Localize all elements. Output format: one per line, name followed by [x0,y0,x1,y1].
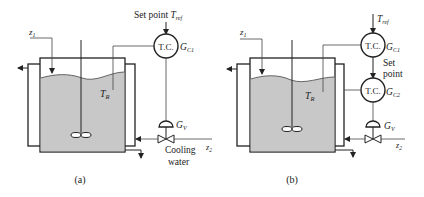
reactor-outlet-arrow-a [125,150,141,158]
inner-setpoint-label-line1-b: Set [383,58,396,68]
inner-setpoint-label-line2-b: point [383,69,403,79]
feed-label-a: z1 [28,27,36,38]
impeller-blade-left-a [71,133,81,138]
coolant-label-line2-a: water [168,157,190,167]
primary-controller-text-b: T.C. [365,41,380,51]
caption-a: (a) [74,174,85,186]
cstr-temperature-control-diagram: z1 TR Set point Tref T.C. GC1 GV z2 Cool… [0,0,424,197]
reactor-liquid-a [41,72,125,151]
disturbance-label-a: z2 [205,143,212,153]
controller-text-a: T.C. [158,42,173,52]
caption-b: (b) [286,174,298,186]
feed-label-b: z1 [239,27,247,38]
setpoint-label-b: Tref [377,14,390,25]
reactor-outlet-arrow-b [335,150,353,157]
valve-gain-b: GV [384,121,396,132]
valve-actuator-icon-a [159,121,173,127]
secondary-controller-text-b: T.C. [365,86,380,96]
panel-b: z1 TR Tref T.C. GC1 Set point T.C. GC2 G… [227,14,405,186]
valve-gain-a: GV [176,120,188,131]
primary-controller-gain-b: GC1 [386,42,400,53]
controller-gain-a: GC1 [180,42,194,53]
panel-a: z1 TR Set point Tref T.C. GC1 GV z2 Cool… [18,10,212,186]
coolant-label-line1-a: Cooling [165,145,196,155]
impeller-blade-right-b [292,127,302,132]
impeller-blade-right-a [81,133,91,138]
disturbance-label-b: z2 [395,141,402,151]
setpoint-label-a: Set point Tref [134,10,183,21]
valve-actuator-icon-b [366,121,380,127]
secondary-controller-gain-b: GC2 [386,87,400,98]
impeller-blade-left-b [282,127,292,132]
